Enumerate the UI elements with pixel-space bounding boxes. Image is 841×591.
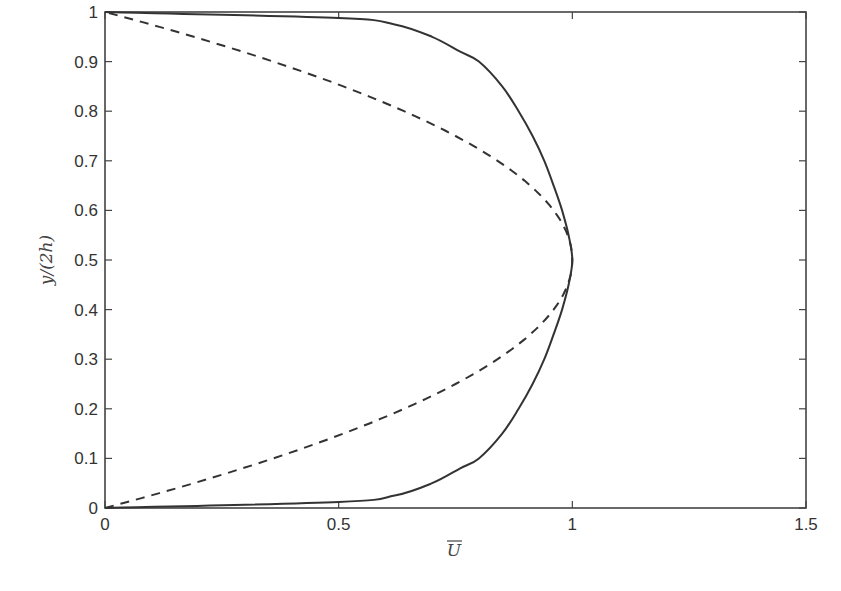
chart-canvas: 00.511.500.10.20.30.40.50.60.70.80.91 y/…	[0, 0, 841, 591]
y-tick-label: 0	[89, 499, 98, 518]
y-tick-label: 0.6	[74, 201, 98, 220]
y-tick-label: 0.8	[74, 102, 98, 121]
x-tick-label: 1	[568, 515, 577, 534]
turbulent-profile-line	[105, 12, 572, 508]
y-tick-label: 0.5	[74, 251, 98, 270]
y-tick-label: 0.2	[74, 400, 98, 419]
x-tick-label: 1.5	[794, 515, 818, 534]
y-tick-label: 0.4	[74, 301, 98, 320]
y-axis-label: y/(2h)	[36, 235, 56, 286]
x-tick-label: 0.5	[327, 515, 351, 534]
plot-frame	[105, 12, 806, 508]
axis-ticks	[105, 12, 806, 508]
y-tick-label: 0.3	[74, 350, 98, 369]
x-axis-label: U	[447, 540, 462, 560]
y-tick-label: 0.9	[74, 53, 98, 72]
y-tick-label: 0.7	[74, 152, 98, 171]
x-tick-label: 0	[100, 515, 109, 534]
y-tick-label: 1	[89, 3, 98, 22]
y-tick-label: 0.1	[74, 449, 98, 468]
tick-labels: 00.511.500.10.20.30.40.50.60.70.80.91	[74, 3, 817, 534]
